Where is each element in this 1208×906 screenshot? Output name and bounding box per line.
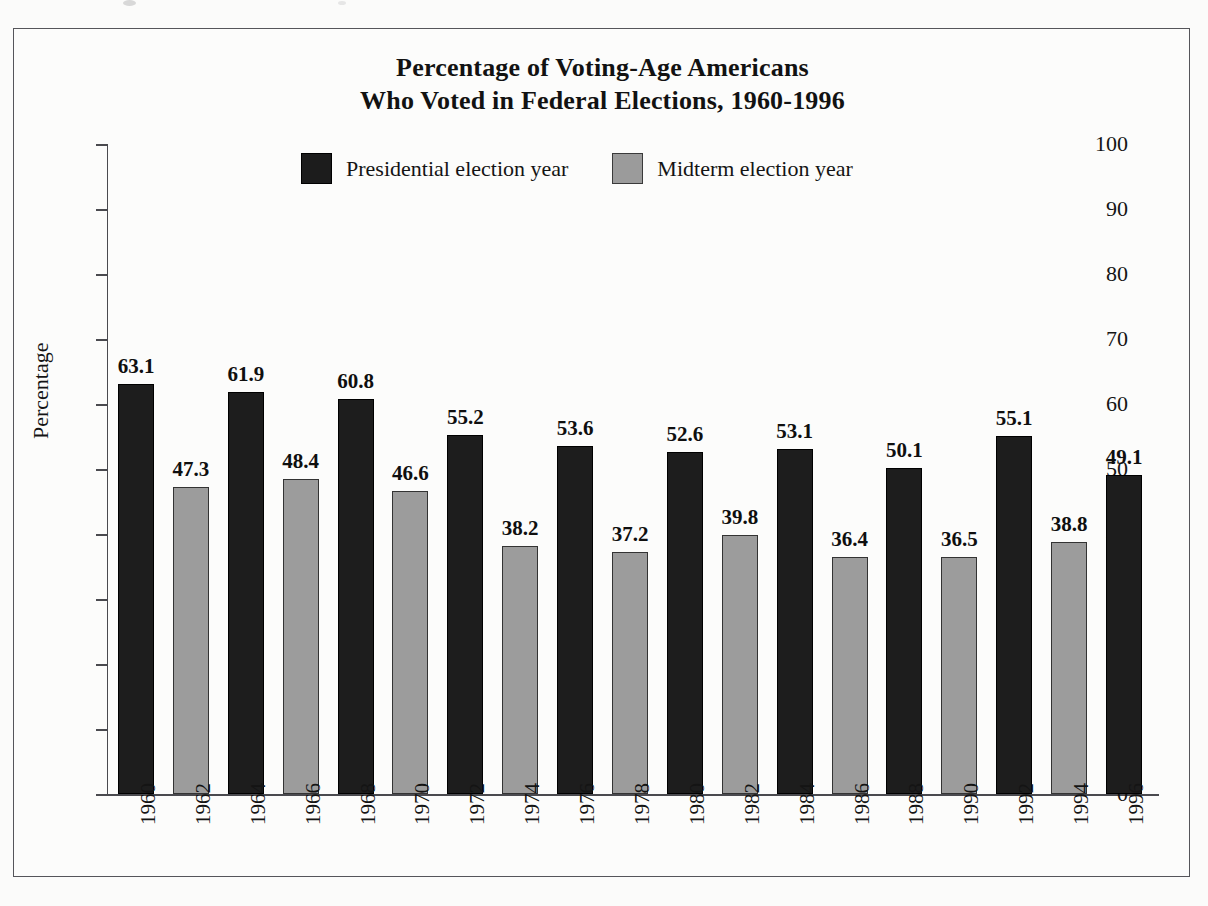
x-axis-tick-label: 1960	[136, 783, 161, 825]
bar-1966[interactable]	[283, 479, 319, 794]
bar-group[interactable]: 60.81968	[338, 144, 374, 794]
bar-group[interactable]: 39.81982	[722, 144, 758, 794]
x-axis-tick-label: 1986	[850, 783, 875, 825]
bar-1986[interactable]	[832, 557, 868, 794]
bar-value-label: 61.9	[227, 362, 264, 387]
bar-value-label: 52.6	[667, 422, 704, 447]
bar-group[interactable]: 36.41986	[832, 144, 868, 794]
bar-value-label: 38.2	[502, 516, 539, 541]
chart-title-line-1: Percentage of Voting-Age Americans	[14, 51, 1191, 84]
chart-title: Percentage of Voting-Age Americans Who V…	[14, 51, 1191, 117]
bar-group[interactable]: 53.11984	[777, 144, 813, 794]
bar-value-label: 48.4	[282, 449, 319, 474]
bar-1992[interactable]	[996, 436, 1032, 794]
bar-1982[interactable]	[722, 535, 758, 794]
x-axis-tick-label: 1962	[191, 783, 216, 825]
x-axis-tick-label: 1964	[246, 783, 271, 825]
x-axis-tick-label: 1988	[904, 783, 929, 825]
bar-1960[interactable]	[118, 384, 154, 794]
scan-artifact	[123, 0, 136, 6]
bar-value-label: 39.8	[721, 505, 758, 530]
y-axis-tick	[96, 404, 108, 406]
x-axis-tick-label: 1978	[630, 783, 655, 825]
x-axis-tick-label: 1996	[1124, 783, 1149, 825]
bar-group[interactable]: 52.61980	[667, 144, 703, 794]
y-axis-tick	[96, 209, 108, 211]
bar-1970[interactable]	[392, 491, 428, 794]
bar-1962[interactable]	[173, 487, 209, 794]
y-axis-tick	[96, 664, 108, 666]
bar-value-label: 38.8	[1051, 512, 1088, 537]
bar-1988[interactable]	[886, 468, 922, 794]
bar-group[interactable]: 47.31962	[173, 144, 209, 794]
bar-group[interactable]: 37.21978	[612, 144, 648, 794]
bar-value-label: 53.1	[776, 419, 813, 444]
bar-1978[interactable]	[612, 552, 648, 794]
y-axis-title: Percentage	[28, 343, 54, 440]
bar-group[interactable]: 36.51990	[941, 144, 977, 794]
x-axis-tick-label: 1982	[740, 783, 765, 825]
bar-value-label: 36.5	[941, 527, 978, 552]
bar-value-label: 50.1	[886, 438, 923, 463]
bar-1964[interactable]	[228, 392, 264, 794]
bar-value-label: 55.2	[447, 405, 484, 430]
bar-value-label: 55.1	[996, 406, 1033, 431]
bar-1968[interactable]	[338, 399, 374, 794]
plot-area: 1009080706050403020100 63.1196047.319626…	[108, 144, 1146, 794]
bar-group[interactable]: 48.41966	[283, 144, 319, 794]
x-axis-tick-label: 1980	[685, 783, 710, 825]
bar-value-label: 53.6	[557, 416, 594, 441]
bar-1994[interactable]	[1051, 542, 1087, 794]
x-axis-tick-label: 1992	[1014, 783, 1039, 825]
bar-group[interactable]: 46.61970	[392, 144, 428, 794]
x-axis-tick-label: 1994	[1069, 783, 1094, 825]
x-axis-tick-label: 1968	[356, 783, 381, 825]
x-axis-tick-label: 1970	[410, 783, 435, 825]
bar-value-label: 60.8	[337, 369, 374, 394]
bar-group[interactable]: 61.91964	[228, 144, 264, 794]
bar-1984[interactable]	[777, 449, 813, 794]
x-axis-tick-label: 1976	[575, 783, 600, 825]
bar-1972[interactable]	[447, 435, 483, 794]
y-axis-tick	[96, 339, 108, 341]
bar-1976[interactable]	[557, 446, 593, 794]
bar-group[interactable]: 63.11960	[118, 144, 154, 794]
bar-value-label: 63.1	[118, 354, 155, 379]
bar-value-label: 36.4	[831, 527, 868, 552]
bar-group[interactable]: 53.61976	[557, 144, 593, 794]
y-axis-tick	[96, 599, 108, 601]
bar-value-label: 49.1	[1106, 445, 1143, 470]
x-axis-tick-label: 1990	[959, 783, 984, 825]
bar-group[interactable]: 38.21974	[502, 144, 538, 794]
x-axis-tick-label: 1974	[520, 783, 545, 825]
x-axis-tick-label: 1984	[795, 783, 820, 825]
bar-group[interactable]: 50.11988	[886, 144, 922, 794]
x-axis-tick-label: 1972	[465, 783, 490, 825]
bar-1980[interactable]	[667, 452, 703, 794]
figure-frame: Percentage of Voting-Age Americans Who V…	[13, 28, 1190, 877]
y-axis-tick	[96, 534, 108, 536]
y-axis-tick	[96, 144, 108, 146]
chart-page: Percentage of Voting-Age Americans Who V…	[0, 0, 1208, 906]
chart-title-line-2: Who Voted in Federal Elections, 1960-199…	[14, 84, 1191, 117]
bar-group[interactable]: 55.11992	[996, 144, 1032, 794]
bar-group[interactable]: 49.11996	[1106, 144, 1142, 794]
y-axis-tick	[96, 729, 108, 731]
bar-group[interactable]: 38.81994	[1051, 144, 1087, 794]
bar-value-label: 37.2	[612, 522, 649, 547]
y-axis-tick	[96, 469, 108, 471]
bar-1996[interactable]	[1106, 475, 1142, 794]
bar-value-label: 47.3	[173, 457, 210, 482]
bar-1974[interactable]	[502, 546, 538, 794]
bar-1990[interactable]	[941, 557, 977, 794]
bar-group[interactable]: 55.21972	[447, 144, 483, 794]
x-axis-tick-label: 1966	[301, 783, 326, 825]
bar-value-label: 46.6	[392, 461, 429, 486]
y-axis-tick	[96, 274, 108, 276]
y-axis-tick	[96, 794, 108, 796]
scan-artifact	[338, 1, 346, 5]
